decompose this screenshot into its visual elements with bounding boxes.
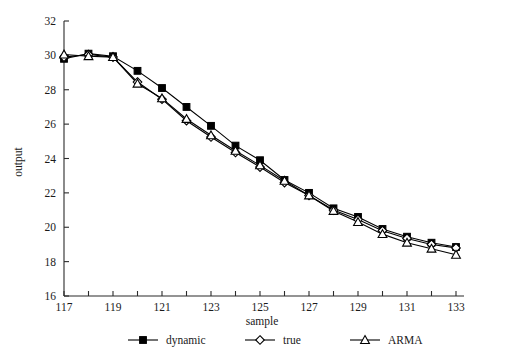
marker-filled-square <box>208 122 215 129</box>
x-tick-label: 123 <box>202 301 220 313</box>
x-tick-label: 119 <box>105 301 122 313</box>
x-axis-title: sample <box>246 315 279 328</box>
y-tick-label: 30 <box>45 49 57 61</box>
series-true <box>64 55 456 248</box>
legend-label: dynamic <box>166 334 206 347</box>
series-markers-dynamic <box>61 50 460 250</box>
x-tick-label: 121 <box>153 301 171 313</box>
x-tick-label: 125 <box>251 301 269 313</box>
x-tick-label: 117 <box>56 301 73 313</box>
y-tick-label: 28 <box>45 84 57 96</box>
series-markers-true <box>60 50 461 252</box>
legend-label: true <box>283 334 301 346</box>
marker-open-triangle <box>60 50 69 58</box>
y-tick-label: 24 <box>45 153 57 165</box>
series-markers-ARMA <box>60 50 461 258</box>
marker-filled-square <box>159 85 166 92</box>
y-axis-title: output <box>12 147 25 177</box>
x-tick-label: 129 <box>349 301 367 313</box>
y-tick-label: 20 <box>45 221 57 233</box>
x-tick-label: 131 <box>398 301 416 313</box>
x-tick-label: 127 <box>300 301 318 313</box>
marker-filled-square <box>183 104 190 111</box>
legend-item-true: true <box>245 334 301 346</box>
x-axis: 117119121123125127129131133 <box>56 291 465 313</box>
legend-label: ARMA <box>388 334 423 346</box>
marker-open-diamond <box>256 336 265 345</box>
line-chart: 161820222426283032 117119121123125127129… <box>0 0 505 357</box>
y-tick-label: 16 <box>45 290 57 302</box>
series-dynamic <box>64 54 456 247</box>
chart-figure: 161820222426283032 117119121123125127129… <box>0 0 505 357</box>
y-tick-label: 22 <box>45 187 57 199</box>
marker-filled-square <box>134 67 141 74</box>
legend-item-ARMA: ARMA <box>350 334 423 346</box>
y-tick-label: 26 <box>45 118 57 130</box>
marker-filled-square <box>140 337 147 344</box>
legend-item-dynamic: dynamic <box>128 334 206 347</box>
legend: dynamictrueARMA <box>128 334 423 347</box>
series-line <box>64 55 456 255</box>
series-line <box>64 54 456 247</box>
series-line <box>64 55 456 248</box>
series-layer <box>60 50 461 258</box>
x-tick-label: 133 <box>447 301 465 313</box>
series-ARMA <box>64 55 456 255</box>
y-tick-label: 18 <box>45 256 57 268</box>
y-tick-label: 32 <box>45 15 57 27</box>
